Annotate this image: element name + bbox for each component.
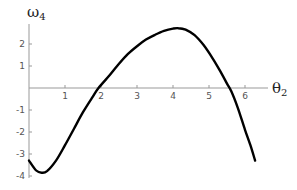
y-tick-label: -2 — [16, 127, 25, 137]
x-tick-label: 5 — [206, 91, 212, 101]
x-tick-label: 1 — [62, 91, 68, 101]
y-tick-label: -1 — [16, 105, 25, 115]
y-tick-label: 1 — [19, 61, 25, 71]
y-tick-label: -4 — [16, 171, 25, 181]
line-chart: 123456-4-3-2-112 ω4 θ2 — [0, 0, 297, 190]
y-tick-label: -3 — [16, 149, 25, 159]
x-tick-label: 6 — [242, 91, 248, 101]
x-tick-label: 2 — [98, 91, 104, 101]
y-axis-title: ω4 — [27, 3, 46, 22]
y-tick-label: 2 — [19, 39, 25, 49]
x-tick-label: 3 — [134, 91, 140, 101]
x-tick-label: 4 — [170, 91, 176, 101]
x-axis-title: θ2 — [272, 79, 287, 98]
axes — [29, 24, 268, 178]
